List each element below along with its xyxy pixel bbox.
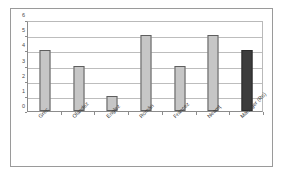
chart-frame: 6 5 4 3 2 1 0 GrecOlandezEnglezRomânFran… xyxy=(10,8,273,167)
y-tick-label-5: 5 xyxy=(22,27,25,33)
bar-rom-n[interactable] xyxy=(140,35,151,111)
bar-slot xyxy=(28,22,62,111)
bar-slot xyxy=(62,22,96,111)
bar-slot xyxy=(129,22,163,111)
y-tick-label-4: 4 xyxy=(22,42,25,48)
plot-area xyxy=(27,21,263,112)
bars-layer xyxy=(28,22,262,111)
y-tick-label-3: 3 xyxy=(22,58,25,64)
bar-slot xyxy=(95,22,129,111)
y-axis: 6 5 4 3 2 1 0 xyxy=(11,15,27,118)
y-tick-label-6: 6 xyxy=(22,12,25,18)
bar-neam[interactable] xyxy=(208,35,219,111)
bar-slot xyxy=(163,22,197,111)
x-axis-labels: GrecOlandezEnglezRomânFrancezNeamţManage… xyxy=(27,115,267,165)
y-tick-label-2: 2 xyxy=(22,73,25,79)
y-tick-label-0: 0 xyxy=(22,103,25,109)
bar-slot xyxy=(197,22,231,111)
bar-grec[interactable] xyxy=(39,50,50,111)
y-tick-label-1: 1 xyxy=(22,88,25,94)
